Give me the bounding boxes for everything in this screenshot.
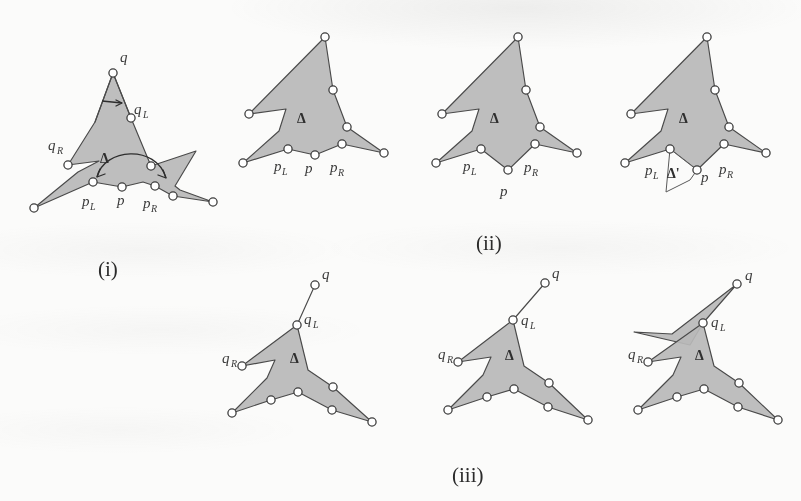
vertex xyxy=(321,33,329,41)
vertex xyxy=(89,178,97,186)
panel-ii-3-polygon xyxy=(625,37,766,170)
label-qL: q xyxy=(711,314,719,330)
label-pR: p xyxy=(142,195,151,211)
vertex xyxy=(544,403,552,411)
vertex xyxy=(380,149,388,157)
label-qL: q xyxy=(134,101,142,117)
label-pL-sub: L xyxy=(652,170,659,181)
label-q: q xyxy=(322,266,330,282)
label-delta: Δ xyxy=(695,348,704,363)
vertex xyxy=(245,110,253,118)
vertex xyxy=(329,86,337,94)
vertex xyxy=(311,281,319,289)
vertex xyxy=(699,319,707,327)
label-qR: q xyxy=(222,350,230,366)
vertex xyxy=(509,316,517,324)
vertex xyxy=(504,166,512,174)
label-pR: p xyxy=(718,161,727,177)
label-delta-prime: Δ' xyxy=(667,166,680,181)
vertex xyxy=(666,145,674,153)
label-pR-sub: R xyxy=(337,167,344,178)
vertex xyxy=(151,182,159,190)
vertex xyxy=(703,33,711,41)
panel-ii-2: Δ p L p p R (ii) xyxy=(432,33,581,255)
vertex xyxy=(228,409,236,417)
vertex xyxy=(147,162,155,170)
panel-ii-1-polygon xyxy=(243,37,384,163)
label-q: q xyxy=(120,49,128,65)
label-qR-sub: R xyxy=(230,358,237,369)
panel-iii-2-q-edge xyxy=(513,283,545,320)
vertex xyxy=(673,393,681,401)
vertex xyxy=(700,385,708,393)
vertex xyxy=(514,33,522,41)
panel-i: q q L q R Δ p L p p R (i) xyxy=(30,49,217,281)
label-qR-sub: R xyxy=(446,354,453,365)
vertex xyxy=(368,418,376,426)
label-pL: p xyxy=(644,162,653,178)
label-p: p xyxy=(700,169,709,185)
vertex xyxy=(30,204,38,212)
vertex xyxy=(522,86,530,94)
panel-ii-3: Δ p L Δ' p p R xyxy=(621,33,770,192)
label-pL-sub: L xyxy=(281,166,288,177)
label-pL-sub: L xyxy=(470,166,477,177)
vertex xyxy=(454,358,462,366)
vertex xyxy=(311,151,319,159)
vertex xyxy=(584,416,592,424)
vertex xyxy=(444,406,452,414)
label-qL: q xyxy=(521,312,529,328)
vertex xyxy=(545,379,553,387)
vertex xyxy=(711,86,719,94)
label-qL-sub: L xyxy=(312,319,319,330)
vertex xyxy=(239,159,247,167)
vertex xyxy=(118,183,126,191)
vertex xyxy=(169,192,177,200)
panel-iii-3: q q L q R Δ xyxy=(628,267,782,424)
vertex xyxy=(238,362,246,370)
vertex xyxy=(109,69,117,77)
label-qL-sub: L xyxy=(142,109,149,120)
vertex xyxy=(432,159,440,167)
label-qR: q xyxy=(628,346,636,362)
vertex xyxy=(64,161,72,169)
vertex xyxy=(644,358,652,366)
vertex xyxy=(328,406,336,414)
vertex xyxy=(510,385,518,393)
vertex xyxy=(734,403,742,411)
panel-iii-2: q q L q R Δ (iii) xyxy=(438,265,592,487)
vertex xyxy=(725,123,733,131)
vertex xyxy=(338,140,346,148)
figure-page: q q L q R Δ p L p p R (i) Δ xyxy=(0,0,801,501)
label-qR-sub: R xyxy=(636,354,643,365)
vertex xyxy=(267,396,275,404)
caption-ii: (ii) xyxy=(476,231,502,255)
panel-iii-1: q q L q R Δ xyxy=(222,266,376,426)
label-pL: p xyxy=(81,193,90,209)
label-pR: p xyxy=(523,159,532,175)
label-p: p xyxy=(116,192,125,208)
label-delta: Δ xyxy=(490,111,499,126)
panel-ii-1: Δ p L p p R xyxy=(239,33,388,178)
label-pL: p xyxy=(462,158,471,174)
caption-iii: (iii) xyxy=(452,463,484,487)
label-pR-sub: R xyxy=(150,203,157,214)
figure-canvas: q q L q R Δ p L p p R (i) Δ xyxy=(0,0,801,501)
label-qR-sub: R xyxy=(56,145,63,156)
panel-iii-1-polygon xyxy=(232,325,372,422)
vertex xyxy=(573,149,581,157)
label-qL: q xyxy=(304,311,312,327)
vertex xyxy=(541,279,549,287)
label-qL-sub: L xyxy=(719,322,726,333)
label-q: q xyxy=(745,267,753,283)
vertex xyxy=(621,159,629,167)
label-delta: Δ xyxy=(679,111,688,126)
label-qL-sub: L xyxy=(529,320,536,331)
label-pL-sub: L xyxy=(89,201,96,212)
caption-i: (i) xyxy=(98,257,118,281)
vertex xyxy=(634,406,642,414)
label-delta: Δ xyxy=(297,111,306,126)
vertex xyxy=(733,280,741,288)
vertex xyxy=(438,110,446,118)
label-delta: Δ xyxy=(290,351,299,366)
